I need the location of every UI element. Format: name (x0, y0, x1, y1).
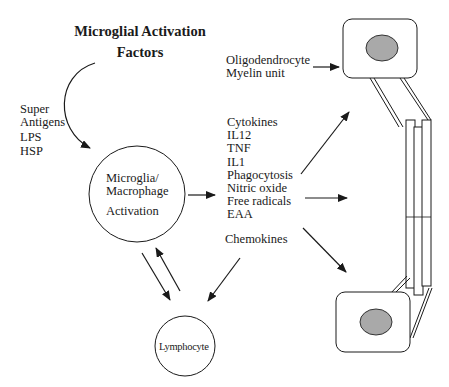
microglia-line-3: Activation (106, 205, 168, 218)
title-line-1: Microglial Activation (70, 23, 210, 40)
bottom-cell-nucleus (360, 309, 392, 335)
oligodendrocyte-label: Oligodendrocyte Myelin unit (226, 54, 310, 80)
diagram-graphics (0, 0, 449, 387)
diagram-canvas: Microglial Activation Factors Super Anti… (0, 0, 449, 387)
title-line-2: Factors (70, 44, 210, 61)
arrow-microglia-to-lymphocyte (142, 253, 170, 300)
microglia-node-label: Microglia/ Macrophage Activation (106, 172, 168, 219)
arrow-mediators-up (301, 112, 349, 174)
mediator-item: IL1 (227, 156, 293, 169)
stimuli-hsp: HSP (20, 145, 65, 158)
lymphocyte-label: Lymphocyte (159, 340, 209, 353)
mediator-item: EAA (227, 208, 293, 221)
arrow-chemokines-to-lymphocyte (208, 258, 240, 301)
stimuli-lps: LPS (20, 131, 65, 144)
oligodendrocyte-line-2: Myelin unit (226, 67, 310, 80)
microglia-line-2: Macrophage (106, 185, 168, 198)
mediators-list: Cytokines IL12 TNF IL1 Phagocytosis Nitr… (227, 116, 293, 222)
chemokines-label: Chemokines (225, 233, 288, 246)
diagram-title: Microglial Activation Factors (70, 23, 210, 61)
stimuli-antigens: Antigens (20, 116, 65, 129)
mediator-item: TNF (227, 142, 293, 155)
arrow-lymphocyte-to-microglia (156, 248, 180, 291)
top-cell-nucleus (366, 35, 398, 61)
myelin-layer-3 (422, 120, 431, 286)
arrow-mediators-down (303, 228, 346, 272)
stimuli-labels: Super Antigens LPS HSP (20, 103, 65, 158)
curved-arrow (64, 63, 95, 148)
